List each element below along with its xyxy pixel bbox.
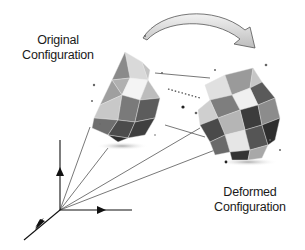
original-label-line2: Configuration — [14, 48, 102, 63]
curved-arrow-icon — [143, 14, 255, 48]
original-polyhedron — [92, 52, 160, 150]
deformed-polyhedron — [198, 68, 280, 166]
deformed-label-line2: Configuration — [200, 200, 300, 215]
dotted-connector — [168, 89, 200, 98]
axis-arrowheads — [35, 167, 106, 230]
deformed-label-line1: Deformed — [200, 185, 300, 200]
deformed-configuration-label: Deformed Configuration — [200, 185, 300, 215]
original-configuration-label: Original Configuration — [14, 33, 102, 63]
original-label-line1: Original — [14, 33, 102, 48]
